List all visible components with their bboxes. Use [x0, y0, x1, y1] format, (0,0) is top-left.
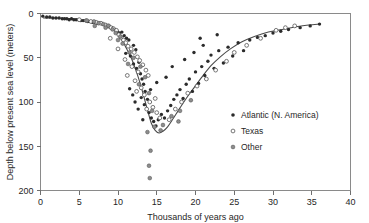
x-tick-label-30: 30 [268, 197, 278, 207]
x-tick-label-15: 15 [152, 197, 162, 207]
data-point [155, 111, 159, 115]
data-point [118, 35, 122, 39]
data-point [164, 76, 167, 79]
data-point [209, 53, 212, 56]
data-point [93, 24, 97, 28]
data-point [144, 68, 148, 72]
data-point [214, 68, 218, 72]
data-point [143, 103, 146, 106]
data-point [135, 67, 138, 70]
y-tick-label-200: 200 [18, 186, 33, 196]
y-tick-label-50: 50 [23, 53, 33, 63]
data-point [143, 90, 146, 93]
x-tick-label-25: 25 [229, 197, 239, 207]
data-point [284, 26, 288, 30]
data-point [158, 116, 162, 120]
data-point [142, 83, 145, 86]
data-point [127, 38, 130, 41]
data-point [185, 83, 188, 86]
data-point [139, 86, 143, 90]
data-point [140, 96, 143, 99]
data-point [41, 14, 44, 17]
data-point [48, 15, 51, 18]
x-tick-label-35: 35 [307, 197, 317, 207]
data-point [248, 38, 251, 41]
data-point [137, 82, 141, 86]
x-tick-label-20: 20 [190, 197, 200, 207]
data-point [132, 56, 136, 60]
data-point [167, 118, 171, 122]
data-point [160, 113, 163, 116]
data-point [128, 51, 132, 55]
data-point [216, 33, 219, 36]
data-point [120, 30, 123, 33]
data-point [163, 116, 166, 119]
x-tick-label-10: 10 [113, 197, 123, 207]
data-point [194, 70, 197, 73]
data-point [123, 58, 127, 62]
axes-group [37, 14, 351, 195]
data-point [130, 65, 134, 69]
data-point [124, 52, 127, 55]
data-point [85, 19, 89, 23]
data-point [153, 125, 157, 129]
data-point [142, 93, 146, 97]
data-point [225, 59, 229, 63]
data-point [232, 51, 236, 55]
data-point [45, 15, 48, 18]
data-point [166, 109, 169, 112]
data-point [136, 70, 140, 74]
data-point [181, 97, 184, 100]
data-point [206, 60, 209, 63]
data-point [159, 128, 163, 132]
data-point [133, 100, 136, 103]
data-point [129, 47, 133, 51]
y-tick-label-100: 100 [18, 97, 33, 107]
data-point [271, 31, 274, 34]
data-point [97, 21, 101, 25]
data-point [178, 88, 181, 91]
data-point [183, 58, 186, 61]
data-point [104, 26, 108, 30]
data-point [298, 26, 301, 29]
data-point [198, 37, 201, 40]
data-point [114, 31, 118, 35]
data-point [139, 65, 143, 69]
data-point [264, 34, 267, 37]
chart-svg: 0510152025303540050100150200Thousands of… [0, 0, 369, 223]
data-point [309, 24, 312, 27]
legend-marker-other [231, 145, 235, 149]
data-point [150, 116, 153, 119]
data-point [155, 81, 158, 84]
data-point [132, 51, 136, 55]
data-point [135, 55, 139, 59]
data-point [180, 100, 184, 104]
y-axis-title: Depth below present sea level (meters) [5, 24, 15, 181]
legend-marker-texas [231, 129, 235, 133]
data-point [192, 51, 195, 54]
data-point [132, 44, 135, 47]
data-point [135, 89, 139, 93]
legend-label-atlantic-n-america: Atlantic (N. America) [241, 110, 319, 120]
series-other [85, 19, 193, 180]
x-tick-label-0: 0 [38, 197, 43, 207]
data-point [318, 22, 321, 25]
data-point [191, 90, 194, 93]
data-point [186, 91, 190, 95]
data-point [173, 107, 177, 111]
data-point [148, 176, 152, 180]
y-tick-label-0: 0 [28, 9, 33, 19]
data-point [200, 65, 203, 68]
data-point [242, 49, 245, 52]
data-point [231, 54, 234, 57]
legend-label-other: Other [241, 142, 262, 152]
data-point [133, 79, 137, 83]
sea-level-chart-figure: 0510152025303540050100150200Thousands of… [0, 0, 369, 223]
data-point [175, 93, 178, 96]
data-point [259, 36, 263, 40]
data-point [279, 30, 282, 33]
x-tick-label-5: 5 [77, 197, 82, 207]
data-point [145, 107, 149, 111]
data-point [125, 74, 129, 78]
data-point [161, 123, 165, 127]
